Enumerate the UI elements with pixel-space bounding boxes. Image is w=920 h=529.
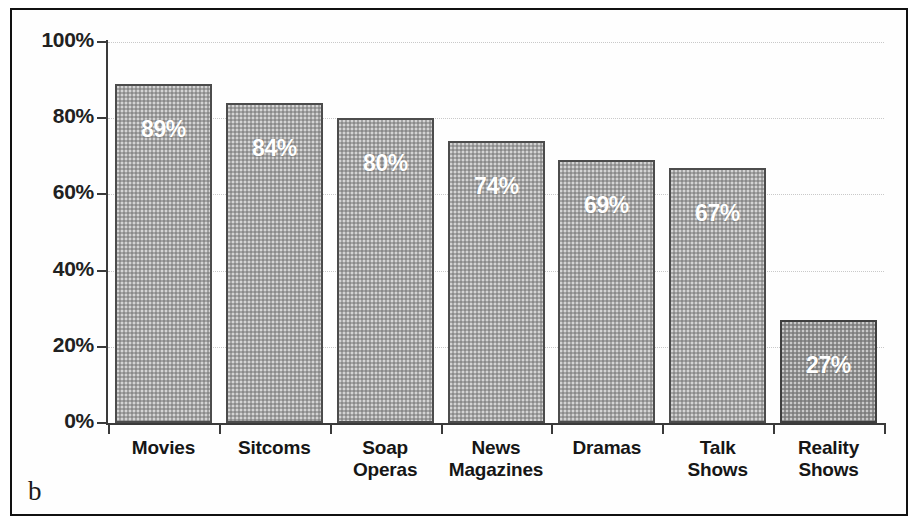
x-axis-tick-mark — [108, 423, 110, 434]
x-axis-tick-mark — [884, 423, 886, 434]
figure-panel: 0%20%40%60%80%100% 89%84%80%74%69%67%27%… — [0, 0, 920, 529]
x-axis-category-label-line: Soap — [330, 437, 441, 459]
gridline — [108, 118, 884, 119]
x-axis-tick-mark — [330, 423, 332, 434]
gridline — [108, 42, 884, 43]
bar-value-label: 27% — [782, 352, 875, 379]
x-axis-tick-mark — [219, 423, 221, 434]
y-axis-tick-label: 20% — [6, 333, 94, 357]
x-axis-category-label-line: Magazines — [441, 459, 552, 481]
y-axis-tick-label: 100% — [6, 28, 94, 52]
y-axis-labels: 0%20%40%60%80%100% — [0, 0, 94, 529]
x-axis-category-label: Movies — [108, 437, 219, 459]
x-axis-category-label-line: Shows — [773, 459, 884, 481]
bar[interactable]: 84% — [226, 103, 323, 423]
y-axis-tick-label: 0% — [6, 409, 94, 433]
x-axis-category-label-line: Shows — [662, 459, 773, 481]
x-axis-tick-mark — [441, 423, 443, 434]
bar[interactable]: 69% — [558, 160, 655, 423]
y-axis-tick-mark — [97, 41, 106, 43]
bar-value-label: 69% — [560, 192, 653, 219]
x-axis-category-label: Sitcoms — [219, 437, 330, 459]
x-axis-category-label: RealityShows — [773, 437, 884, 482]
x-axis-tick-mark — [662, 423, 664, 434]
y-axis-tick-label: 60% — [6, 180, 94, 204]
bar-value-label: 84% — [228, 135, 321, 162]
y-axis-tick-mark — [97, 422, 106, 424]
x-axis-tick-mark — [551, 423, 553, 434]
y-axis-line — [106, 40, 108, 425]
bar[interactable]: 89% — [115, 84, 212, 423]
y-axis-tick-mark — [97, 117, 106, 119]
bar[interactable]: 74% — [448, 141, 545, 423]
x-axis-category-label-line: Sitcoms — [219, 437, 330, 459]
x-axis-category-label-line: Dramas — [551, 437, 662, 459]
bar[interactable]: 27% — [780, 320, 877, 423]
y-axis-tick-label: 40% — [6, 257, 94, 281]
x-axis-category-label: SoapOperas — [330, 437, 441, 482]
y-axis-tick-mark — [97, 346, 106, 348]
bar-value-label: 80% — [339, 150, 432, 177]
y-axis-tick-mark — [97, 193, 106, 195]
x-axis-category-label-line: Talk — [662, 437, 773, 459]
panel-letter: b — [28, 478, 42, 505]
x-axis-category-label: TalkShows — [662, 437, 773, 482]
x-axis-category-label-line: Reality — [773, 437, 884, 459]
bar[interactable]: 67% — [669, 168, 766, 423]
bar-value-label: 89% — [117, 116, 210, 143]
x-axis-category-label-line: News — [441, 437, 552, 459]
x-axis-category-label-line: Operas — [330, 459, 441, 481]
x-axis-category-label: Dramas — [551, 437, 662, 459]
bar-value-label: 74% — [450, 173, 543, 200]
x-axis-category-label-line: Movies — [108, 437, 219, 459]
x-axis-tick-mark — [773, 423, 775, 434]
bar-value-label: 67% — [671, 200, 764, 227]
y-axis-tick-label: 80% — [6, 104, 94, 128]
y-axis-tick-mark — [97, 270, 106, 272]
x-axis-line — [106, 423, 886, 425]
bar[interactable]: 80% — [337, 118, 434, 423]
x-axis-category-label: NewsMagazines — [441, 437, 552, 482]
